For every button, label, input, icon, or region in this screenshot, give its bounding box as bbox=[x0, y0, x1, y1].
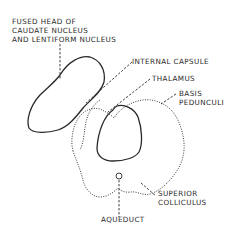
brain-structures-diagram: FUSED HEAD OF CAUDATE NUCLEUS AND LENTIF… bbox=[0, 0, 239, 234]
label-fused-head: FUSED HEAD OF CAUDATE NUCLEUS AND LENTIF… bbox=[12, 17, 116, 44]
label-superior-colliculus: SUPERIOR COLLICULUS bbox=[158, 189, 207, 207]
thalamus-outline bbox=[97, 105, 142, 161]
label-thalamus: THALAMUS bbox=[151, 74, 195, 83]
aqueduct-circle bbox=[116, 173, 122, 179]
label-basis-pedunculi: BASIS PEDUNCULI bbox=[179, 89, 224, 107]
leader-internal-capsule bbox=[86, 62, 132, 103]
leader-basis-pedunculi bbox=[161, 94, 176, 104]
fused-head-outline bbox=[28, 57, 104, 133]
label-internal-capsule: INTERNAL CAPSULE bbox=[132, 57, 209, 66]
midbrain-outline bbox=[72, 100, 184, 197]
label-aqueduct: AQUEDUCT bbox=[101, 215, 145, 224]
